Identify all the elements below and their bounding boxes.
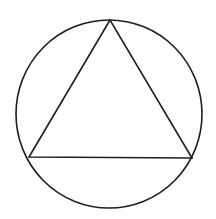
circumscribed-circle <box>16 20 202 208</box>
diagram-canvas <box>0 0 216 219</box>
diagram-svg <box>0 0 216 219</box>
